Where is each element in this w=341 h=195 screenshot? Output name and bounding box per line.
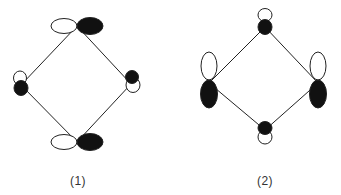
top-orbital — [258, 9, 272, 35]
bond-line-bottom-left — [21, 85, 77, 142]
filled-lobe — [310, 80, 327, 108]
filled-lobe — [201, 80, 218, 108]
bottom-orbital — [51, 134, 103, 151]
right-orbital — [126, 71, 141, 93]
bond-line-right-bottom — [77, 84, 131, 142]
filled-lobe — [258, 20, 272, 35]
filled-lobe — [258, 122, 272, 135]
left-orbital — [201, 52, 218, 108]
filled-lobe — [77, 134, 103, 151]
filled-lobe — [126, 71, 139, 84]
bond-line-top-right — [265, 27, 318, 83]
empty-lobe — [310, 52, 326, 80]
orbital-diagrams-canvas — [0, 0, 341, 195]
bottom-orbital — [258, 122, 272, 145]
bond-line-top-right — [77, 26, 131, 84]
diagram-1-label: (1) — [70, 174, 86, 188]
left-orbital — [14, 71, 29, 96]
empty-lobe — [51, 19, 77, 34]
empty-lobe — [201, 52, 217, 80]
bond-line-left-top — [21, 26, 77, 85]
right-orbital — [310, 52, 327, 108]
filled-lobe — [14, 81, 28, 96]
filled-lobe — [77, 18, 103, 35]
empty-lobe — [51, 135, 77, 150]
diagram-1 — [14, 18, 141, 151]
bond-line-left-top — [209, 27, 265, 83]
top-orbital — [51, 18, 103, 35]
diagram-2-label: (2) — [257, 174, 273, 188]
diagram-2 — [201, 9, 327, 145]
